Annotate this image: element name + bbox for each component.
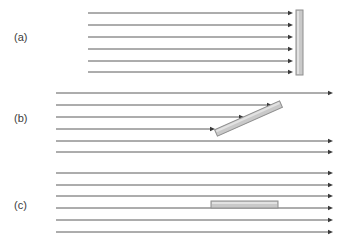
obstacle-horizontal-bar bbox=[211, 201, 278, 208]
ray-arrowhead-icon bbox=[288, 11, 293, 15]
ray bbox=[88, 35, 293, 39]
ray-arrowhead-icon bbox=[328, 91, 333, 95]
ray bbox=[56, 139, 333, 143]
panel-c: (c) bbox=[14, 171, 333, 234]
ray-arrowhead-icon bbox=[328, 171, 333, 175]
ray bbox=[88, 59, 293, 63]
ray bbox=[56, 218, 333, 222]
ray bbox=[88, 23, 293, 27]
ray bbox=[56, 183, 333, 187]
ray bbox=[56, 150, 333, 154]
ray-arrowhead-icon bbox=[328, 206, 333, 210]
panel-label-b: (b) bbox=[14, 112, 27, 124]
ray-arrowhead-icon bbox=[328, 183, 333, 187]
ray-arrowhead-icon bbox=[210, 127, 215, 131]
obstacle-vertical-bar bbox=[296, 10, 303, 75]
ray bbox=[56, 230, 333, 234]
ray-arrowhead-icon bbox=[288, 70, 293, 74]
ray bbox=[88, 11, 293, 15]
ray bbox=[56, 103, 272, 107]
ray-arrowhead-icon bbox=[328, 194, 333, 198]
panel-label-c: (c) bbox=[14, 199, 27, 211]
ray bbox=[56, 91, 333, 95]
diagram-canvas: (a) (b) (c) bbox=[0, 0, 343, 244]
ray-arrowhead-icon bbox=[328, 230, 333, 234]
ray-arrowhead-icon bbox=[288, 47, 293, 51]
ray-arrowhead-icon bbox=[328, 150, 333, 154]
ray bbox=[88, 47, 293, 51]
ray bbox=[56, 171, 333, 175]
ray bbox=[88, 70, 293, 74]
obstacle-tilted-bar bbox=[215, 101, 283, 136]
ray bbox=[56, 115, 244, 119]
panel-a: (a) bbox=[14, 10, 303, 75]
ray-arrowhead-icon bbox=[328, 218, 333, 222]
panel-b: (b) bbox=[14, 91, 333, 154]
obstacle-highlight bbox=[212, 202, 277, 204]
ray bbox=[56, 194, 333, 198]
ray-diagram-figure: (a) (b) (c) bbox=[0, 0, 343, 244]
ray bbox=[56, 206, 333, 210]
ray-arrowhead-icon bbox=[328, 139, 333, 143]
ray-arrowhead-icon bbox=[288, 59, 293, 63]
ray-arrowhead-icon bbox=[288, 35, 293, 39]
ray-arrowhead-icon bbox=[288, 23, 293, 27]
obstacle-highlight bbox=[297, 11, 299, 74]
panel-label-a: (a) bbox=[14, 31, 27, 43]
ray bbox=[56, 127, 215, 131]
